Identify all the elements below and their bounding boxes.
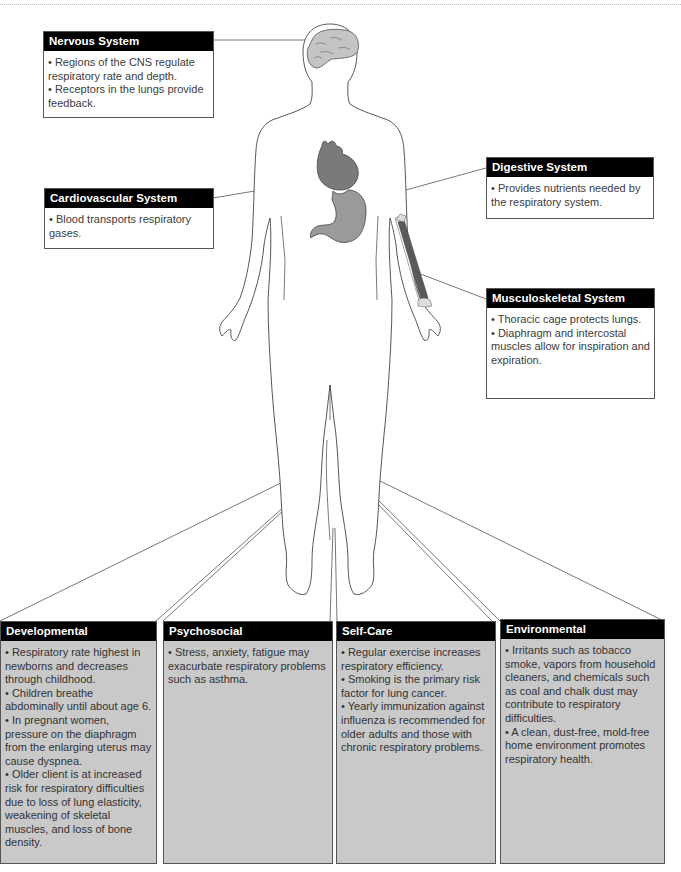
self-care-bullet-1: • Regular exercise increases respiratory…: [341, 646, 491, 673]
self-care-bullet-3: • Yearly immunization against influenza …: [341, 700, 491, 754]
psychosocial-box: Psychosocial • Stress, anxiety, fatigue …: [163, 621, 333, 864]
nervous-system-box: Nervous System • Regions of the CNS regu…: [43, 31, 214, 118]
human-body-outline-icon: [220, 24, 441, 595]
musculoskeletal-bullet-1: • Thoracic cage protects lungs.: [491, 313, 650, 327]
self-care-box: Self-Care • Regular exercise increases r…: [336, 621, 496, 864]
developmental-bullet-1: • Respiratory rate highest in newborns a…: [5, 646, 152, 687]
cardiovascular-system-title: Cardiovascular System: [45, 189, 213, 208]
developmental-bullet-2: • Children breathe abdominally until abo…: [5, 687, 152, 714]
digestive-bullet-1: • Provides nutrients needed by the respi…: [491, 182, 649, 209]
developmental-box: Developmental • Respiratory rate highest…: [0, 621, 157, 864]
nervous-bullet-1: • Regions of the CNS regulate respirator…: [48, 56, 209, 83]
musculoskeletal-system-title: Musculoskeletal System: [487, 289, 654, 308]
cardiovascular-bullet-1: • Blood transports respiratory gases.: [49, 213, 209, 240]
environmental-title: Environmental: [501, 620, 664, 639]
psychosocial-bullet-1: • Stress, anxiety, fatigue may exacurbat…: [168, 646, 328, 687]
cardiovascular-system-box: Cardiovascular System • Blood transports…: [44, 188, 214, 249]
nervous-bullet-2: • Receptors in the lungs provide feedbac…: [48, 83, 209, 110]
self-care-bullet-2: • Smoking is the primary risk factor for…: [341, 673, 491, 700]
self-care-title: Self-Care: [337, 622, 495, 641]
psychosocial-title: Psychosocial: [164, 622, 332, 641]
digestive-system-box: Digestive System • Provides nutrients ne…: [486, 157, 654, 219]
digestive-system-title: Digestive System: [487, 158, 653, 177]
developmental-bullet-4: • Older client is at increased risk for …: [5, 768, 152, 850]
nervous-system-title: Nervous System: [44, 32, 213, 51]
environmental-bullet-2: • A clean, dust-free, mold-free home env…: [505, 726, 660, 767]
developmental-title: Developmental: [1, 622, 156, 641]
environmental-box: Environmental • Irritants such as tobacc…: [500, 619, 665, 864]
environmental-bullet-1: • Irritants such as tobacco smoke, vapor…: [505, 644, 660, 726]
developmental-bullet-3: • In pregnant women, pressure on the dia…: [5, 714, 152, 768]
musculoskeletal-system-box: Musculoskeletal System • Thoracic cage p…: [486, 288, 655, 399]
musculoskeletal-bullet-2: • Diaphragm and intercostal muscles allo…: [491, 327, 650, 368]
